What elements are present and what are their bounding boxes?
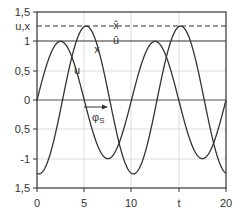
- x-tick-0: 0: [34, 197, 40, 209]
- x-tick-10: 10: [125, 197, 137, 209]
- phase-shift-arrow: [84, 105, 108, 110]
- x-axis-label: t: [177, 197, 180, 209]
- x-tick-5: 5: [81, 197, 87, 209]
- y-tick-neg-0-5: 0,5: [15, 123, 30, 135]
- x-hat-label: x̂: [113, 19, 119, 31]
- phase-shift-label: φS: [92, 111, 104, 125]
- x-tick-20: 20: [220, 197, 232, 209]
- y-tick-1-5: 1,5: [15, 6, 30, 18]
- y-tick-neg-1-5: 1,5: [15, 182, 30, 194]
- phase-subscript: S: [99, 116, 104, 125]
- y-tick-1: 1: [24, 35, 30, 47]
- x-curve-label: x: [94, 43, 100, 55]
- u-curve-label: u: [74, 64, 80, 76]
- y-tick-0-5: 0,5: [15, 65, 30, 77]
- y-axis-label: u,x: [15, 20, 30, 32]
- y-tick-neg-1: -1: [20, 153, 30, 165]
- y-tick-0: 0: [24, 94, 30, 106]
- chart: 1,5 u,x 1 0,5 0 0,5 -1 1,5 0 5 10 t 20 x…: [0, 0, 237, 219]
- u-hat-label: û: [113, 34, 119, 46]
- phase-symbol: φ: [92, 111, 99, 123]
